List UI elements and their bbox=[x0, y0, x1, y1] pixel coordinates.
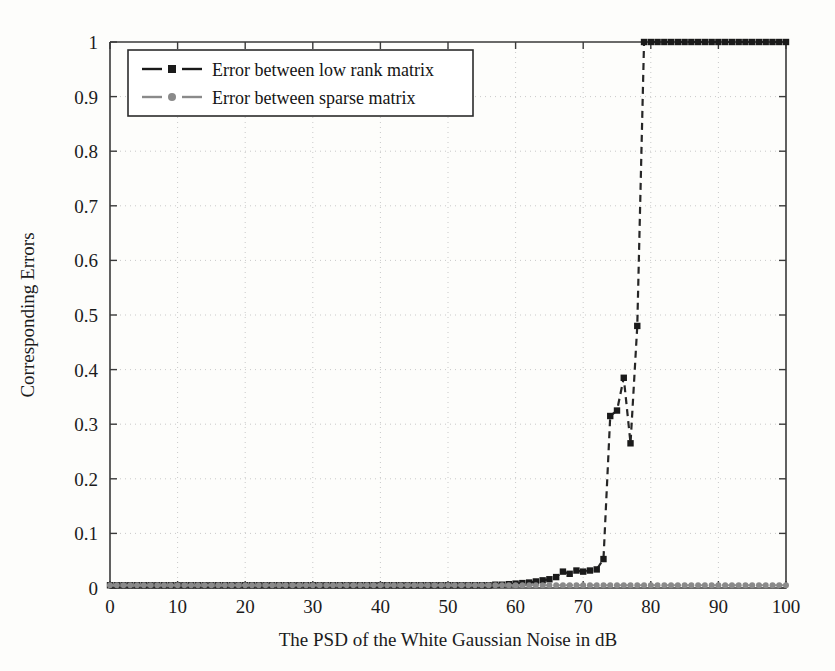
x-tick-label: 0 bbox=[105, 596, 115, 617]
data-point-marker bbox=[519, 582, 525, 588]
data-point-marker bbox=[722, 39, 728, 45]
data-point-marker bbox=[208, 582, 214, 588]
data-point-marker bbox=[769, 582, 775, 588]
data-point-marker bbox=[715, 582, 721, 588]
x-tick-label: 50 bbox=[439, 596, 458, 617]
legend-marker-circle bbox=[168, 93, 176, 101]
data-point-marker bbox=[648, 39, 654, 45]
data-point-marker bbox=[499, 582, 505, 588]
data-point-marker bbox=[708, 39, 714, 45]
data-point-marker bbox=[296, 582, 302, 588]
data-point-marker bbox=[607, 413, 613, 419]
data-point-marker bbox=[127, 582, 133, 588]
data-point-marker bbox=[729, 39, 735, 45]
data-point-marker bbox=[235, 582, 241, 588]
data-point-marker bbox=[567, 582, 573, 588]
data-point-marker bbox=[438, 582, 444, 588]
data-point-marker bbox=[661, 582, 667, 588]
data-point-marker bbox=[269, 582, 275, 588]
data-point-marker bbox=[154, 582, 160, 588]
data-point-marker bbox=[681, 39, 687, 45]
x-tick-label: 40 bbox=[371, 596, 390, 617]
chart-figure: 010203040506070809010000.10.20.30.40.50.… bbox=[0, 0, 835, 671]
x-tick-label: 60 bbox=[506, 596, 525, 617]
data-point-marker bbox=[479, 582, 485, 588]
data-point-marker bbox=[398, 582, 404, 588]
x-tick-label: 90 bbox=[709, 596, 728, 617]
data-point-marker bbox=[594, 582, 600, 588]
data-point-marker bbox=[431, 582, 437, 588]
data-point-marker bbox=[384, 582, 390, 588]
data-point-marker bbox=[742, 39, 748, 45]
data-point-marker bbox=[546, 576, 552, 582]
data-point-marker bbox=[756, 582, 762, 588]
data-point-marker bbox=[452, 582, 458, 588]
data-point-marker bbox=[188, 582, 194, 588]
data-point-marker bbox=[242, 582, 248, 588]
y-tick-label: 0.2 bbox=[74, 469, 98, 490]
data-point-marker bbox=[290, 582, 296, 588]
data-point-marker bbox=[783, 582, 789, 588]
data-point-marker bbox=[566, 571, 572, 577]
data-point-marker bbox=[418, 582, 424, 588]
x-tick-label: 20 bbox=[236, 596, 255, 617]
y-tick-label: 0.3 bbox=[74, 414, 98, 435]
data-point-marker bbox=[526, 582, 532, 588]
data-point-marker bbox=[472, 582, 478, 588]
data-point-marker bbox=[344, 582, 350, 588]
data-point-marker bbox=[675, 39, 681, 45]
data-point-marker bbox=[114, 582, 120, 588]
data-point-marker bbox=[776, 39, 782, 45]
data-point-marker bbox=[641, 39, 647, 45]
data-point-marker bbox=[310, 582, 316, 588]
data-point-marker bbox=[229, 582, 235, 588]
data-point-marker bbox=[729, 582, 735, 588]
y-axis-title: Corresponding Errors bbox=[17, 232, 38, 397]
data-point-marker bbox=[249, 582, 255, 588]
data-point-marker bbox=[141, 582, 147, 588]
data-point-marker bbox=[661, 39, 667, 45]
data-point-marker bbox=[709, 582, 715, 588]
data-point-marker bbox=[715, 39, 721, 45]
data-point-marker bbox=[546, 582, 552, 588]
data-point-marker bbox=[742, 582, 748, 588]
data-point-marker bbox=[357, 582, 363, 588]
data-point-marker bbox=[776, 582, 782, 588]
data-point-marker bbox=[404, 582, 410, 588]
data-point-marker bbox=[161, 582, 167, 588]
data-point-marker bbox=[675, 582, 681, 588]
series-sparse bbox=[107, 582, 789, 588]
y-tick-label: 1 bbox=[89, 32, 99, 53]
data-point-marker bbox=[688, 582, 694, 588]
data-point-marker bbox=[540, 582, 546, 588]
data-point-marker bbox=[749, 39, 755, 45]
legend-label: Error between sparse matrix bbox=[212, 88, 415, 108]
data-point-marker bbox=[641, 582, 647, 588]
data-point-marker bbox=[262, 582, 268, 588]
data-point-marker bbox=[276, 582, 282, 588]
data-point-marker bbox=[587, 582, 593, 588]
chart-svg: 010203040506070809010000.10.20.30.40.50.… bbox=[0, 0, 835, 671]
data-point-marker bbox=[445, 582, 451, 588]
data-point-marker bbox=[256, 582, 262, 588]
y-tick-label: 0.9 bbox=[74, 87, 98, 108]
data-point-marker bbox=[634, 323, 640, 329]
data-point-marker bbox=[350, 582, 356, 588]
data-point-marker bbox=[506, 582, 512, 588]
data-point-marker bbox=[533, 582, 539, 588]
data-point-marker bbox=[222, 582, 228, 588]
data-point-marker bbox=[107, 582, 113, 588]
data-point-marker bbox=[607, 582, 613, 588]
y-tick-label: 0.8 bbox=[74, 141, 98, 162]
data-point-marker bbox=[627, 440, 633, 446]
data-point-marker bbox=[722, 582, 728, 588]
data-point-marker bbox=[621, 375, 627, 381]
y-tick-label: 0.4 bbox=[74, 360, 98, 381]
data-point-marker bbox=[695, 582, 701, 588]
data-point-marker bbox=[465, 582, 471, 588]
data-point-marker bbox=[763, 582, 769, 588]
data-point-marker bbox=[573, 567, 579, 573]
y-tick-label: 0.5 bbox=[74, 305, 98, 326]
data-point-marker bbox=[377, 582, 383, 588]
data-point-marker bbox=[459, 582, 465, 588]
